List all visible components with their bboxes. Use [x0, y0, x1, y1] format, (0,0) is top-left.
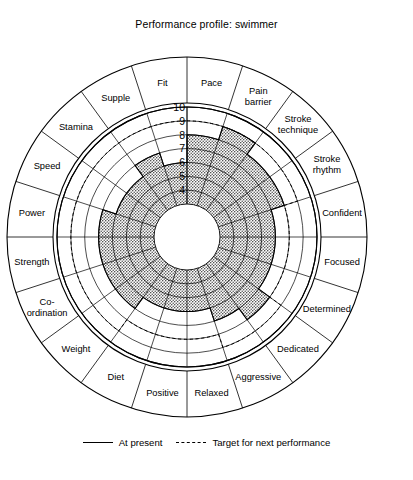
sector-label-aggressive: Aggressive [235, 372, 281, 382]
axis-tick-5: 5 [179, 170, 185, 182]
sector-label-pain-barrier: Painbarrier [245, 86, 272, 107]
legend-item-target: Target for next performance [176, 437, 330, 448]
sector-label-positive: Positive [146, 388, 179, 398]
sector-label-strength: Strength [14, 257, 49, 267]
sector-label-stamina: Stamina [59, 122, 94, 132]
sector-label-stroke-technique: Stroketechnique [278, 114, 318, 135]
sector-label-stroke-rhythm: Strokerhythm [313, 154, 342, 175]
sector-label-relaxed: Relaxed [194, 388, 228, 398]
axis-tick-7: 7 [179, 142, 185, 154]
center-hole [154, 204, 220, 270]
axis-tick-6: 6 [179, 156, 185, 168]
sector-label-speed: Speed [34, 161, 61, 171]
sector-label-dedicated: Dedicated [277, 344, 319, 354]
sector-label-power: Power [19, 208, 45, 218]
axis-tick-10: 10 [173, 101, 185, 113]
sector-label-co-ordination: Co-ordination [27, 297, 68, 318]
sector-label-determined: Determined [303, 304, 351, 314]
sector-label-pace: Pace [201, 78, 222, 88]
sector-label-weight: Weight [62, 344, 91, 354]
sector-label-diet: Diet [107, 372, 124, 382]
axis-tick-9: 9 [179, 115, 185, 127]
legend-label-target: Target for next performance [212, 437, 330, 448]
legend-item-at-present: At present [83, 437, 163, 448]
page-title: Performance profile: swimmer [0, 18, 413, 30]
legend-label-at-present: At present [119, 437, 163, 448]
sector-label-fit: Fit [157, 78, 168, 88]
radar-chart: 10987654 PacePainbarrierStroketechniqueS… [0, 40, 413, 420]
axis-tick-4: 4 [179, 184, 185, 196]
axis-tick-8: 8 [179, 129, 185, 141]
sector-label-supple: Supple [101, 93, 130, 103]
chart-legend: At present Target for next performance [0, 437, 413, 448]
sector-label-focused: Focused [324, 257, 360, 267]
sector-label-confident: Confident [322, 208, 362, 218]
radar-chart-svg: 10987654 PacePainbarrierStroketechniqueS… [0, 40, 413, 420]
solid-line-swatch [83, 442, 113, 443]
dashed-line-swatch [176, 442, 206, 443]
